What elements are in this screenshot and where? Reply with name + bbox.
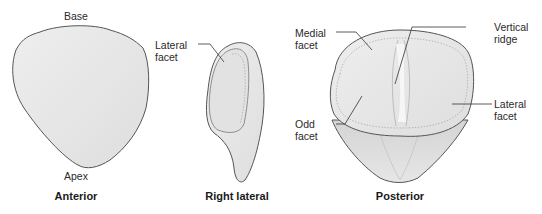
label-line: Odd [295, 118, 318, 130]
label-vertical-ridge: Vertical ridge [494, 21, 528, 45]
label-line: facet [155, 51, 187, 63]
label-line: Lateral [494, 98, 526, 110]
label-base: Base [64, 10, 88, 22]
posterior-patella [330, 30, 473, 183]
caption-posterior: Posterior [376, 190, 424, 202]
label-line: facet [295, 39, 326, 51]
label-line: facet [295, 130, 318, 142]
label-line: Lateral [155, 39, 187, 51]
label-lateral-facet-posterior: Lateral facet [494, 98, 526, 122]
label-line: Medial [295, 27, 326, 39]
caption-anterior: Anterior [55, 190, 98, 202]
label-lateral-facet-side: Lateral facet [155, 39, 187, 63]
label-medial-facet: Medial facet [295, 27, 326, 51]
label-line: ridge [494, 33, 528, 45]
anterior-patella [13, 26, 149, 168]
caption-right-lateral: Right lateral [205, 190, 269, 202]
right-lateral-patella [206, 43, 264, 182]
label-line: facet [494, 110, 526, 122]
label-line: Vertical [494, 21, 528, 33]
label-odd-facet: Odd facet [295, 118, 318, 142]
label-apex: Apex [64, 170, 88, 182]
